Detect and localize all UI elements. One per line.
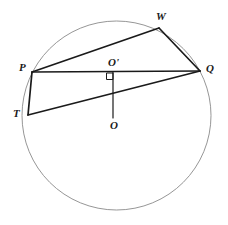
segment-pw — [32, 28, 159, 72]
geometry-figure: W P Q O' O T — [0, 0, 228, 225]
point-label-q: Q — [206, 63, 214, 74]
point-label-t: T — [13, 108, 20, 119]
geometry-canvas — [0, 0, 228, 225]
segment-pq — [32, 71, 200, 72]
right-angle-marker-icon — [107, 73, 114, 80]
segment-wq — [159, 28, 200, 71]
main-circle — [22, 21, 211, 210]
point-label-o: O — [110, 120, 118, 131]
point-label-w: W — [156, 11, 166, 22]
point-label-o-prime: O' — [108, 57, 119, 68]
point-label-p: P — [19, 62, 26, 73]
segment-tq — [28, 71, 200, 115]
